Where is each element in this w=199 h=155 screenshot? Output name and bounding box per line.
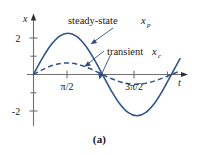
figure-container: x t 2 -2 π/2 3π/2 steady-state x p trans… bbox=[0, 0, 199, 155]
y-axis-arrowhead bbox=[31, 14, 36, 21]
steady-state-leader-line bbox=[94, 28, 114, 42]
y-axis-label: x bbox=[22, 13, 28, 24]
transient-annotation-symbol: x bbox=[151, 46, 157, 57]
axes-group bbox=[27, 14, 188, 127]
x-tick-label-pi-over-2: π/2 bbox=[61, 81, 74, 92]
steady-state-annotation-subscript: p bbox=[146, 21, 151, 29]
steady-state-annotation-text: steady-state bbox=[68, 15, 118, 26]
y-tick-label-neg2: -2 bbox=[12, 106, 20, 117]
y-tick-label-2: 2 bbox=[16, 33, 21, 44]
x-axis-arrowhead bbox=[181, 72, 188, 77]
figure-caption: (a) bbox=[0, 133, 199, 145]
plot-svg: x t 2 -2 π/2 3π/2 steady-state x p trans… bbox=[0, 0, 199, 155]
transient-secondary-leader-line bbox=[101, 55, 111, 77]
x-axis-label: t bbox=[178, 77, 181, 88]
steady-state-annotation-symbol: x bbox=[140, 15, 146, 26]
transient-annotation-text: transient bbox=[107, 46, 143, 57]
transient-annotation: transient x c bbox=[107, 46, 162, 60]
transient-annotation-subscript: c bbox=[158, 52, 162, 60]
x-tick-label-3pi-over-2: 3π/2 bbox=[125, 81, 143, 92]
steady-state-annotation: steady-state x p bbox=[68, 15, 151, 29]
